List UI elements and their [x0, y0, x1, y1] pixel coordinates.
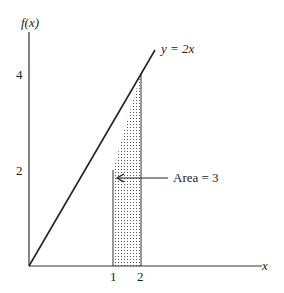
area-annotation: Area = 3: [173, 171, 219, 184]
y-tick-4: 4: [16, 68, 23, 81]
x-tick-2: 2: [137, 270, 144, 283]
x-tick-1: 1: [110, 270, 117, 283]
shaded-area-region: [113, 73, 141, 266]
x-axis-label: x: [262, 259, 268, 272]
function-label: y = 2x: [161, 42, 194, 55]
chart-canvas: [0, 0, 284, 293]
y-axis-label: f(x): [21, 16, 39, 29]
y-tick-2: 2: [16, 164, 23, 177]
